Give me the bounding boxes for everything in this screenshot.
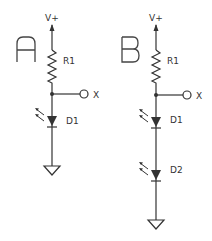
output-label-a: X <box>93 90 99 100</box>
resistor-r1-a <box>48 50 56 94</box>
circuit-b: B V+ R1 X D1 <box>0 0 202 229</box>
supply-arrowhead-icon <box>50 24 55 31</box>
supply-arrowhead-icon <box>154 24 159 31</box>
ground-icon <box>148 220 164 229</box>
output-label-b: X <box>196 91 202 101</box>
output-terminal-a[interactable] <box>80 90 88 98</box>
circuit-a-title-glyph <box>17 37 35 62</box>
resistor-r1-b <box>152 50 160 95</box>
light-emission-arrows-icon <box>35 108 44 121</box>
light-emission-arrows-icon <box>139 162 148 175</box>
led-d2-b <box>139 162 161 181</box>
resistor-label-a: R1 <box>63 56 75 66</box>
led-label-d1-b: D1 <box>170 115 183 125</box>
diode-triangle-icon <box>151 170 161 180</box>
diode-triangle-icon <box>151 117 161 127</box>
led-label-d2-b: D2 <box>170 165 183 175</box>
circuit-a: A V+ R1 X D1 <box>0 0 99 175</box>
light-emission-arrows-icon <box>139 109 148 122</box>
output-terminal-b[interactable] <box>183 91 191 99</box>
led-label-d1-a: D1 <box>66 116 79 126</box>
ground-icon <box>44 166 60 175</box>
circuit-diagram: A V+ R1 X D1 B V+ <box>0 0 212 241</box>
supply-label-b: V+ <box>149 13 163 23</box>
diode-triangle-icon <box>47 116 57 126</box>
circuit-b-title-glyph <box>122 37 139 62</box>
led-d1-a <box>35 108 57 127</box>
supply-label-a: V+ <box>45 13 59 23</box>
resistor-label-b: R1 <box>167 56 179 66</box>
led-d1-b <box>139 109 161 128</box>
